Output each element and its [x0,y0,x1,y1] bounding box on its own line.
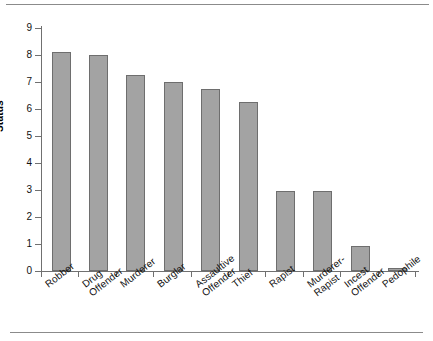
x-axis-tick [191,271,192,277]
x-axis-tick [303,271,304,277]
x-axis-tick [78,271,79,277]
y-axis-tick-label: 6 [26,104,32,114]
y-axis-tick [35,82,41,83]
y-axis-tick-label: 2 [26,212,32,222]
y-axis-tick [35,244,41,245]
y-axis-tick-label: 1 [26,239,32,249]
x-axis-label: Drug Offender [80,257,125,299]
x-axis-tick [265,271,266,277]
y-axis-tick-label: 0 [26,266,32,276]
y-axis-tick [35,163,41,164]
bar [52,52,71,271]
y-axis-tick-label: 7 [26,77,32,87]
y-axis-tick [35,217,41,218]
bar-chart: Status 0123456789 RobberDrug OffenderMur… [0,0,433,341]
x-axis-tick [153,271,154,277]
y-axis-tick [35,28,41,29]
bar [313,191,332,271]
x-axis-tick [415,271,416,277]
y-axis-tick-label: 5 [26,131,32,141]
y-axis-tick-label: 4 [26,158,32,168]
bar [276,191,295,271]
x-axis-tick [41,271,42,277]
y-axis-tick-label: 9 [26,23,32,33]
y-axis-tick-label: 3 [26,185,32,195]
y-axis-tick [35,136,41,137]
y-axis-tick-label: 8 [26,50,32,60]
y-axis-tick [35,55,41,56]
y-axis-tick [35,190,41,191]
y-axis-tick [35,109,41,110]
bar [164,82,183,271]
bar [201,89,220,271]
bar [89,55,108,271]
y-axis-title: Status [0,100,5,132]
bar [239,102,258,271]
x-axis-label: Incest Offender [342,257,387,299]
bar [126,75,145,271]
y-axis-line [41,26,42,272]
